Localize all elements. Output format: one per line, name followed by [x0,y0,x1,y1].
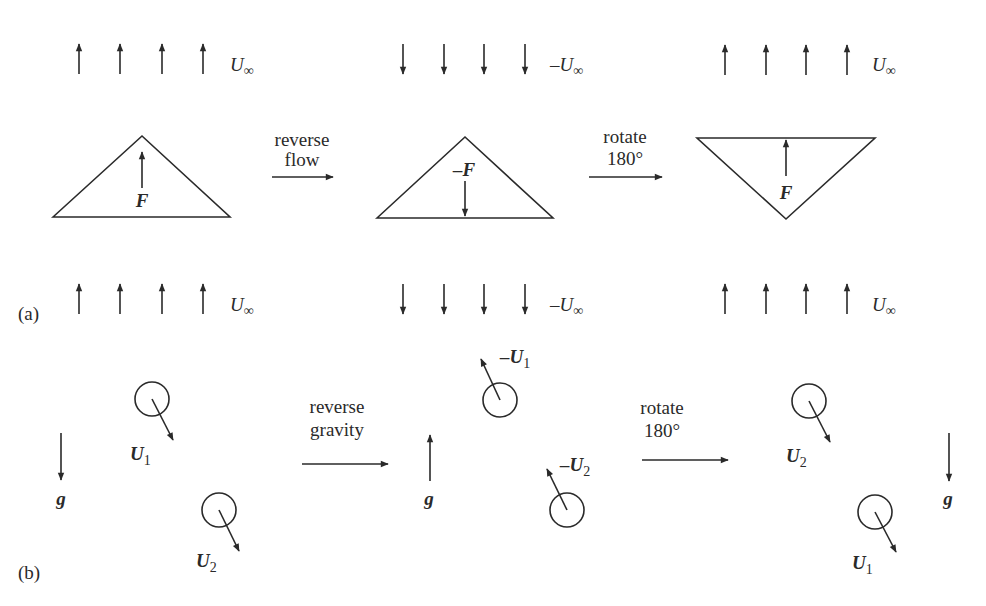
particle-circle [858,495,892,529]
velocity-arrow-icon [152,399,173,440]
particle-2: U2 [196,493,239,575]
uniform-flow-arrows-down [403,284,525,314]
force-label: F [779,182,793,203]
particle-1-rotated: U1 [852,495,896,577]
panel-b-stage-3: U∞ g U2 U1 [725,284,953,577]
panel-a-stage-2: –U∞ –F [377,44,583,218]
freestream-velocity-label: U∞ [230,54,254,78]
transition-reverse-gravity: reverse gravity [302,396,388,464]
freestream-velocity-label: U∞ [872,294,896,318]
velocity-arrow-icon [809,401,830,442]
panel-b-label: (b) [18,562,40,584]
transition-reverse-flow: reverse flow [272,129,333,177]
uniform-flow-arrows-down [403,44,525,74]
freestream-velocity-label: U∞ [872,54,896,78]
transition-label-line2: flow [285,149,320,170]
gravity-label: g [55,488,66,509]
uniform-flow-arrows-up [725,45,847,75]
velocity-arrow-icon [547,469,567,510]
particle-2-rotated: U2 [786,384,830,470]
particle-velocity-label: U2 [786,445,807,470]
panel-b: U∞ g U1 U2 reverse gravity [18,284,953,584]
particle-velocity-label: –U1 [499,346,530,371]
force-label: –F [452,159,476,180]
freestream-velocity-label: U∞ [230,294,254,318]
particle-velocity-label: U2 [196,550,217,575]
transition-label-line1: reverse [275,129,330,150]
gravity-label: g [423,488,434,509]
panel-a-label: (a) [18,303,39,325]
velocity-arrow-icon [875,512,896,552]
transition-label-line2: 180° [644,420,680,441]
freestream-velocity-label: –U∞ [549,294,583,318]
particle-velocity-label: –U2 [559,454,590,479]
velocity-arrow-icon [219,510,239,551]
panel-a-stage-3: U∞ F [697,45,896,219]
transition-label-line2: gravity [310,419,364,440]
particle-1-reversed: –U1 [481,346,530,417]
freestream-velocity-label: –U∞ [549,54,583,78]
particle-velocity-label: U1 [130,443,151,468]
transition-label-line1: reverse [310,396,365,417]
uniform-flow-arrows-up [79,44,203,74]
transition-label-line1: rotate [603,126,646,147]
particle-2-reversed: –U2 [547,454,590,527]
panel-b-stage-2: –U∞ g –U1 –U2 [403,284,590,527]
particle-1: U1 [130,382,173,468]
panel-a-stage-1: U∞ F [53,44,254,217]
transition-rotate-180: rotate 180° [589,126,662,177]
transition-label-line1: rotate [640,397,683,418]
panel-a: U∞ F reverse flow –U∞ –F rotate [18,44,896,325]
uniform-flow-arrows-up [79,284,203,314]
panel-b-stage-1: U∞ g U1 U2 [55,284,253,575]
transition-rotate-180: rotate 180° [640,397,728,460]
flow-reversibility-diagram: U∞ F reverse flow –U∞ –F rotate [0,0,986,606]
force-label: F [135,190,149,211]
transition-label-line2: 180° [607,148,643,169]
particle-velocity-label: U1 [852,552,873,577]
gravity-label: g [942,488,953,509]
uniform-flow-arrows-up [725,284,847,314]
